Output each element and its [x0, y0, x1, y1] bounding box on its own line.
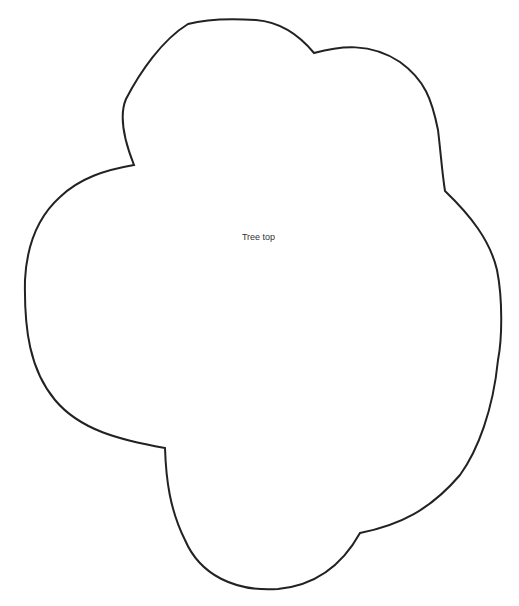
shape-label: Tree top: [0, 232, 518, 242]
tree-top-outline[interactable]: [0, 0, 519, 606]
canvas: Tree top: [0, 0, 519, 606]
